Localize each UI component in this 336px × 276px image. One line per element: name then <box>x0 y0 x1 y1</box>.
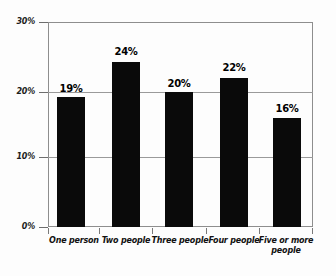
x-axis-label-five-or-more-people-line2: people <box>257 246 315 256</box>
category-separator-2 <box>152 228 153 234</box>
y-axis-tick-20 <box>39 92 48 93</box>
y-axis-tick-30 <box>39 22 48 23</box>
x-axis-label-four-people-line1: Four people <box>204 236 264 246</box>
y-axis-tick-10 <box>39 157 48 158</box>
x-axis-label-three-people-line1: Three people <box>149 236 211 246</box>
category-separator-4 <box>259 228 260 234</box>
x-axis-label-four-people: Four people <box>204 236 264 246</box>
x-axis-label-one-person-line1: One person <box>45 236 103 246</box>
category-separator-3 <box>206 228 207 234</box>
y-axis-label-30: 30% <box>0 17 35 27</box>
bar-three-people <box>165 92 193 227</box>
bar-one-person <box>57 97 85 227</box>
y-axis-label-0-text: 0% <box>22 222 35 231</box>
y-axis-label-0: 0% <box>0 222 35 232</box>
bar-two-people <box>112 62 140 227</box>
bar-value-one-person: 19% <box>51 83 91 94</box>
x-axis-label-three-people: Three people <box>149 236 211 246</box>
x-axis-label-five-or-more-people-line1: Five or more <box>257 236 315 246</box>
y-axis-label-20: 20% <box>0 87 35 97</box>
bar-value-two-people: 24% <box>106 46 146 57</box>
y-axis-label-10: 10% <box>0 152 35 162</box>
bar-four-people <box>220 78 248 227</box>
bar-five-or-more-people <box>273 118 301 227</box>
x-axis-label-two-people-line1: Two people <box>97 236 155 246</box>
x-axis-label-one-person: One person <box>45 236 103 246</box>
category-separator-0 <box>48 228 49 234</box>
bar-value-four-people: 22% <box>214 62 254 73</box>
y-axis-label-10-text: 10% <box>16 152 35 161</box>
bar-value-three-people: 20% <box>159 78 199 89</box>
x-axis-label-two-people: Two people <box>97 236 155 246</box>
y-axis-label-30-text: 30% <box>16 17 35 26</box>
bar-chart: 30% 20% 10% 0% 19% 24% 20% 22% 16% One p… <box>0 0 336 276</box>
x-axis-label-five-or-more-people: Five or more people <box>257 236 315 256</box>
y-axis-label-20-text: 20% <box>16 87 35 96</box>
category-separator-5 <box>312 228 313 234</box>
y-axis-tick-0 <box>39 227 48 228</box>
bar-value-five-or-more-people: 16% <box>267 103 307 114</box>
category-separator-1 <box>99 228 100 234</box>
